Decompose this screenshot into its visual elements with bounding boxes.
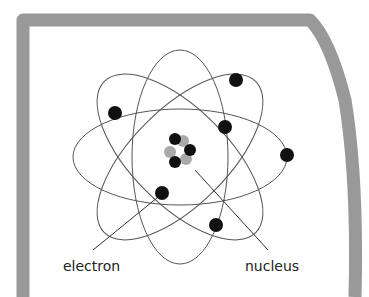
nucleus [164,133,196,168]
proton [169,156,181,168]
nucleus-label: nucleus [245,258,299,274]
electron [108,106,122,120]
electron-leader-line [93,193,163,250]
orbit-ellipse [70,47,289,266]
orbit-ellipse [70,47,289,266]
nucleus-leader-line [195,170,268,250]
proton [184,144,196,156]
electron [209,218,223,232]
electron [218,120,232,134]
electron [280,148,294,162]
orbit-ellipse [132,50,228,264]
atom-diagram: electron nucleus [0,0,369,297]
electrons-group [108,73,294,232]
orbits-group [70,47,289,266]
electron [155,186,169,200]
proton [169,133,181,145]
electron-label: electron [63,258,120,274]
orbit-ellipse [73,109,287,205]
electron [229,73,243,87]
